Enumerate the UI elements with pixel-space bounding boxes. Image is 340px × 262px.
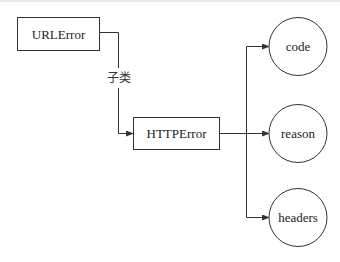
- edges-attributes: [220, 47, 270, 218]
- node-code: code: [269, 18, 327, 76]
- httperror-label: HTTPError: [147, 126, 208, 141]
- reason-label: reason: [281, 126, 315, 141]
- edge-subclass: 子类: [100, 33, 134, 134]
- subclass-line-bottom: [119, 88, 134, 134]
- headers-label: headers: [278, 210, 318, 225]
- node-headers: headers: [269, 189, 327, 247]
- urlerror-label: URLError: [32, 27, 86, 42]
- node-httperror: HTTPError: [134, 118, 220, 150]
- class-diagram: URLError 子类 HTTPError code reason header…: [0, 0, 340, 262]
- node-reason: reason: [269, 105, 327, 163]
- node-urlerror: URLError: [18, 18, 100, 51]
- subclass-label: 子类: [107, 71, 131, 85]
- code-label: code: [286, 39, 311, 54]
- subclass-line-top: [100, 33, 119, 69]
